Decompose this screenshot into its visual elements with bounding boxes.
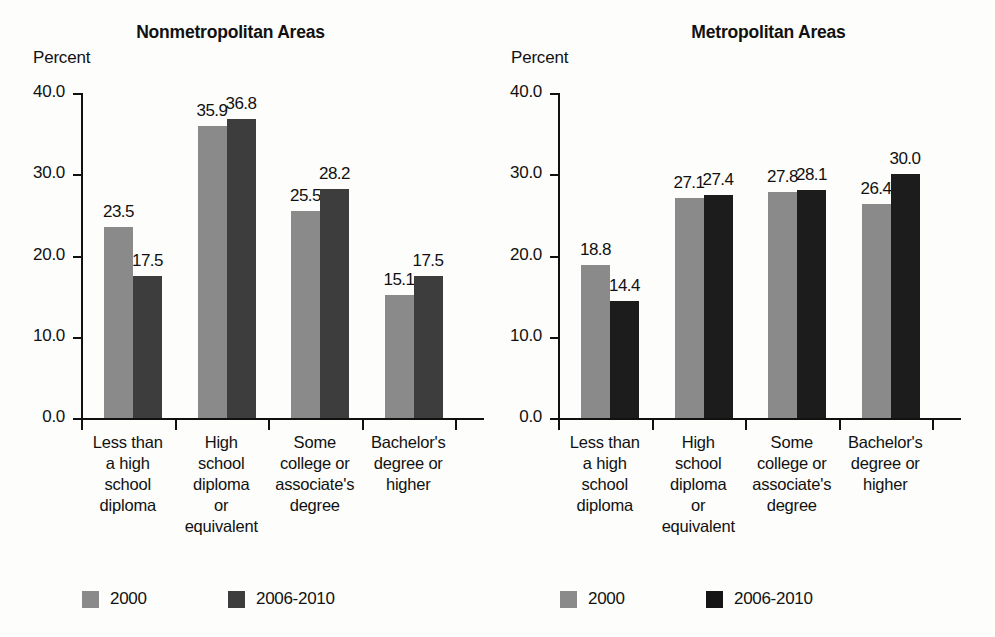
y-axis-tick-label: 0.0 — [3, 407, 65, 427]
bar-metropolitan-2000-cat3 — [862, 204, 891, 419]
legend-swatch-icon — [82, 591, 99, 608]
bar-value-label: 14.4 — [599, 276, 651, 296]
legend-item-2000[interactable]: 2000 — [82, 589, 147, 609]
plot-area: 0.010.020.030.040.023.517.5Less than a h… — [0, 0, 497, 637]
bar-nonmetropolitan-2000-cat3 — [385, 295, 414, 418]
bar-nonmetropolitan-2000-cat2 — [291, 211, 320, 418]
y-axis-tick — [550, 337, 559, 339]
y-axis-tick-label: 10.0 — [480, 326, 542, 346]
y-axis-tick-label: 30.0 — [480, 163, 542, 183]
y-axis-tick-label: 20.0 — [3, 245, 65, 265]
bar-metropolitan-2006-2010-cat2 — [797, 190, 826, 418]
x-axis-line — [81, 418, 484, 420]
y-axis-tick-label: 0.0 — [480, 407, 542, 427]
x-axis-category-tick — [362, 420, 364, 430]
bar-value-label: 36.8 — [215, 94, 267, 114]
x-axis-category-label: Bachelor's degree or higher — [354, 432, 464, 495]
bar-nonmetropolitan-2006-2010-cat0 — [133, 276, 162, 418]
bar-value-label: 27.4 — [692, 170, 744, 190]
x-axis-category-tick — [932, 420, 934, 430]
y-axis-tick — [550, 256, 559, 258]
legend-label: 2006-2010 — [734, 589, 813, 609]
x-axis-category-tick — [839, 420, 841, 430]
x-axis-category-tick — [268, 420, 270, 430]
y-axis-tick — [73, 256, 82, 258]
x-axis-category-tick — [81, 420, 83, 430]
y-axis-tick — [73, 337, 82, 339]
y-axis-tick — [73, 93, 82, 95]
x-axis-category-label: Bachelor's degree or higher — [831, 432, 941, 495]
y-axis-tick — [73, 174, 82, 176]
chart-panel-metropolitan: Metropolitan Areas Percent 0.010.020.030… — [498, 0, 995, 637]
legend-swatch-icon — [228, 591, 245, 608]
x-axis-category-tick — [175, 420, 177, 430]
y-axis-tick-label: 10.0 — [3, 326, 65, 346]
bar-value-label: 23.5 — [93, 202, 145, 222]
bar-nonmetropolitan-2006-2010-cat1 — [227, 119, 256, 418]
bar-value-label: 17.5 — [402, 251, 454, 271]
chart-legend: 20002006-2010 — [498, 589, 995, 619]
bar-metropolitan-2006-2010-cat0 — [610, 301, 639, 418]
bar-value-label: 18.8 — [570, 240, 622, 260]
bar-metropolitan-2006-2010-cat1 — [704, 195, 733, 418]
legend-item-2006-2010[interactable]: 2006-2010 — [228, 589, 335, 609]
legend-item-2006-2010[interactable]: 2006-2010 — [706, 589, 813, 609]
legend-label: 2000 — [110, 589, 147, 609]
bar-metropolitan-2000-cat1 — [675, 198, 704, 418]
x-axis-category-tick — [745, 420, 747, 430]
y-axis-tick-label: 40.0 — [480, 82, 542, 102]
bar-value-label: 28.2 — [309, 164, 361, 184]
legend-label: 2006-2010 — [256, 589, 335, 609]
legend-label: 2000 — [588, 589, 625, 609]
legend-swatch-icon — [560, 591, 577, 608]
bar-metropolitan-2000-cat2 — [768, 192, 797, 418]
bar-value-label: 28.1 — [786, 165, 838, 185]
chart-panel-nonmetropolitan: Nonmetropolitan Areas Percent 0.010.020.… — [0, 0, 497, 637]
y-axis-tick-label: 40.0 — [3, 82, 65, 102]
plot-area: 0.010.020.030.040.018.814.4Less than a h… — [498, 0, 995, 637]
y-axis-tick — [550, 93, 559, 95]
figure-canvas: Nonmetropolitan Areas Percent 0.010.020.… — [0, 0, 995, 637]
bar-value-label: 17.5 — [122, 251, 174, 271]
y-axis-tick — [550, 174, 559, 176]
bar-nonmetropolitan-2000-cat1 — [198, 126, 227, 418]
y-axis-tick-label: 30.0 — [3, 163, 65, 183]
x-axis-category-tick — [455, 420, 457, 430]
legend-item-2000[interactable]: 2000 — [560, 589, 625, 609]
bar-value-label: 30.0 — [879, 149, 931, 169]
x-axis-line — [558, 418, 961, 420]
bar-metropolitan-2006-2010-cat3 — [891, 174, 920, 418]
bar-nonmetropolitan-2006-2010-cat2 — [320, 189, 349, 418]
x-axis-category-tick — [652, 420, 654, 430]
chart-legend: 20002006-2010 — [0, 589, 497, 619]
bar-nonmetropolitan-2006-2010-cat3 — [414, 276, 443, 418]
legend-swatch-icon — [706, 591, 723, 608]
x-axis-category-tick — [558, 420, 560, 430]
y-axis-tick-label: 20.0 — [480, 245, 542, 265]
